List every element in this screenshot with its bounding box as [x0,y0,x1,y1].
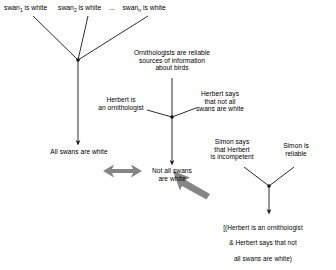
rebuttal-double-arrow [103,165,142,178]
node-herbert-says: Herbert says that not all swans are whit… [189,90,251,113]
line-simon-reliable [269,167,294,186]
junction-dot-ornithologist [170,115,174,119]
defeater-line-3: all swans are white) [190,255,336,263]
premise-swan-n: swann is white [122,4,165,11]
junction-dot-induction [76,58,80,62]
premise-swan-1: swan1 is white [4,4,47,11]
node-not-all-swans-are-white: Not all swans are white [142,167,202,182]
node-simon-says-herbert-incompetent: Simon says that Herbert is incompetent [202,138,262,161]
junction-dot-simon [267,184,271,188]
premise-swan-2: swan2 is white [58,4,101,11]
node-herbert-is-ornithologist: Herbert is an ornithologist [90,96,152,111]
node-simon-is-reliable: Simon is reliable [272,142,320,157]
node-defeater-conclusion: [(Herbert is an ornithologist & Herbert … [190,216,336,270]
top-premises-row: swan1 is white swan2 is white ... swann … [4,4,166,14]
node-all-swans-are-white: All swans are white [34,148,124,156]
defeater-line-2: & Herbert says that not [190,239,336,247]
argument-diagram: swan1 is white swan2 is white ... swann … [0,0,336,270]
premise-ellipsis: ... [109,4,115,11]
defeater-line-1: [(Herbert is an ornithologist [190,224,336,232]
line-simon-says [244,167,269,186]
node-ornithologists-reliable: Ornithologists are reliable sources of i… [120,49,224,72]
